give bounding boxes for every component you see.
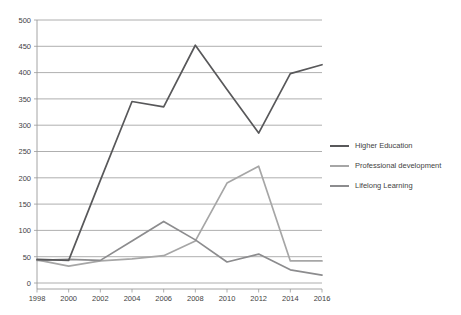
y-axis-tick-label: 200	[18, 174, 31, 183]
x-axis-tick-label: 2016	[314, 294, 331, 303]
y-axis-tick-label: 250	[18, 147, 31, 156]
x-axis-tick-label: 2002	[92, 294, 109, 303]
legend-item-label: Professional development	[355, 162, 441, 170]
y-axis-tick-label: 500	[18, 16, 31, 25]
x-axis-tick-label: 2006	[155, 294, 172, 303]
legend-item-lifelong-learning[interactable]: Lifelong Learning	[330, 178, 441, 193]
y-axis-tick-label: 100	[18, 226, 31, 235]
chart-legend: Higher EducationProfessional development…	[330, 138, 441, 198]
x-axis-tick-label: 2010	[219, 294, 236, 303]
legend-item-professional-development[interactable]: Professional development	[330, 158, 441, 173]
legend-item-label: Lifelong Learning	[355, 182, 413, 190]
y-axis-tick-label: 350	[18, 95, 31, 104]
x-axis-tick-label: 1998	[29, 294, 46, 303]
x-axis-tick-label: 2012	[250, 294, 267, 303]
legend-item-higher-education[interactable]: Higher Education	[330, 138, 441, 153]
legend-item-label: Higher Education	[355, 142, 413, 150]
y-axis-tick-label: 450	[18, 42, 31, 51]
x-axis-tick-label: 2008	[187, 294, 204, 303]
series-line-professional-development	[37, 166, 322, 266]
y-axis-tick-label: 150	[18, 200, 31, 209]
x-axis-tick-label: 2014	[282, 294, 299, 303]
legend-color-swatch	[330, 185, 349, 187]
x-axis-tick-label: 2000	[60, 294, 77, 303]
x-axis-tick-label: 2004	[124, 294, 141, 303]
y-axis-tick-label: 400	[18, 68, 31, 77]
legend-color-swatch	[330, 165, 349, 167]
line-chart: 0501001502002503003504004505001998200020…	[0, 0, 461, 315]
legend-color-swatch	[330, 145, 349, 147]
y-axis-tick-label: 300	[18, 121, 31, 130]
y-axis-tick-label: 0	[27, 279, 31, 288]
y-axis-tick-label: 50	[23, 253, 31, 262]
